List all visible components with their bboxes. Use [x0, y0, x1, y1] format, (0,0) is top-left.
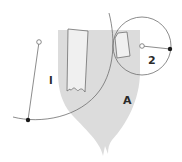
inner-panel-left: [67, 29, 88, 92]
inner-panel-right: [115, 32, 130, 58]
arc-one-center-hollow-dot-icon: [37, 40, 42, 45]
circle-two-radius-line: [142, 46, 170, 49]
circle-two-center-hollow-dot-icon: [140, 44, 145, 49]
label-shape-a: A: [123, 94, 132, 107]
circle-two-edge-filled-dot-icon: [168, 47, 172, 51]
arc-one-edge-filled-dot-icon: [26, 118, 30, 122]
arc-one-radius-line: [28, 42, 39, 120]
diagram-canvas: I 2 A: [0, 0, 182, 162]
label-region-two: 2: [148, 54, 156, 67]
label-region-one: I: [49, 75, 53, 86]
